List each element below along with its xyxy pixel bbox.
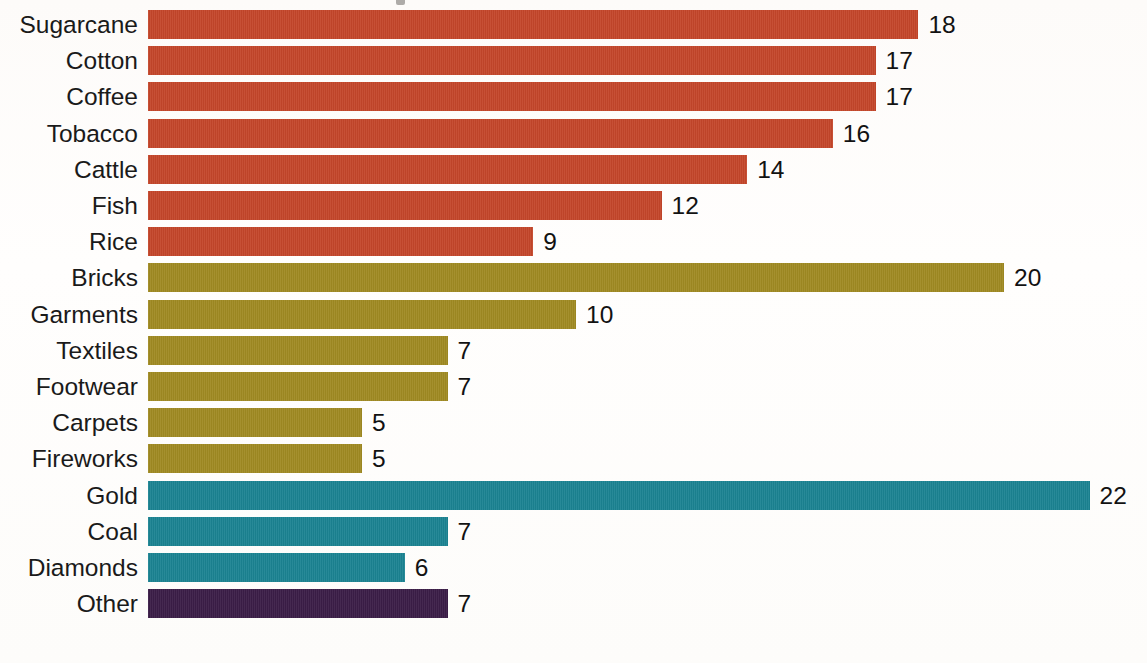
value-label-cotton: 17 [886,46,913,75]
category-label-cotton: Cotton [0,46,138,75]
bar-row: Garments10 [0,300,1147,329]
bar-row: Footwear7 [0,372,1147,401]
value-label-rice: 9 [543,227,557,256]
bar-sugarcane [148,10,918,39]
bar-row: Fish12 [0,191,1147,220]
value-label-other: 7 [458,589,472,618]
bar-gold [148,481,1090,510]
bar-row: Diamonds6 [0,553,1147,582]
bar-row: Other7 [0,589,1147,618]
value-label-cattle: 14 [757,155,784,184]
bar-row: Coal7 [0,517,1147,546]
category-label-rice: Rice [0,227,138,256]
category-label-tobacco: Tobacco [0,119,138,148]
category-label-carpets: Carpets [0,408,138,437]
bar-row: Coffee17 [0,82,1147,111]
bar-other [148,589,448,618]
category-label-garments: Garments [0,300,138,329]
category-label-coffee: Coffee [0,82,138,111]
value-label-footwear: 7 [458,372,472,401]
bar-fireworks [148,444,362,473]
value-label-carpets: 5 [372,408,386,437]
bar-carpets [148,408,362,437]
category-label-textiles: Textiles [0,336,138,365]
bar-row: Cattle14 [0,155,1147,184]
bar-row: Bricks20 [0,263,1147,292]
bar-footwear [148,372,448,401]
value-label-fish: 12 [672,191,699,220]
bar-rice [148,227,533,256]
category-label-diamonds: Diamonds [0,553,138,582]
bar-diamonds [148,553,405,582]
bar-row: Fireworks5 [0,444,1147,473]
category-label-gold: Gold [0,481,138,510]
value-label-fireworks: 5 [372,444,386,473]
value-label-textiles: 7 [458,336,472,365]
bar-tobacco [148,119,833,148]
bar-row: Gold22 [0,481,1147,510]
category-label-bricks: Bricks [0,263,138,292]
bar-chart: Sugarcane18Cotton17Coffee17Tobacco16Catt… [0,0,1147,663]
category-label-cattle: Cattle [0,155,138,184]
bar-garments [148,300,576,329]
bar-row: Rice9 [0,227,1147,256]
bar-fish [148,191,662,220]
bar-coal [148,517,448,546]
value-label-diamonds: 6 [415,553,429,582]
bar-row: Textiles7 [0,336,1147,365]
bar-coffee [148,82,876,111]
bar-textiles [148,336,448,365]
category-label-sugarcane: Sugarcane [0,10,138,39]
bar-row: Carpets5 [0,408,1147,437]
value-label-coal: 7 [458,517,472,546]
bar-cattle [148,155,747,184]
bar-row: Tobacco16 [0,119,1147,148]
category-label-fish: Fish [0,191,138,220]
category-label-coal: Coal [0,517,138,546]
category-label-footwear: Footwear [0,372,138,401]
bar-bricks [148,263,1004,292]
bar-row: Cotton17 [0,46,1147,75]
category-label-fireworks: Fireworks [0,444,138,473]
category-label-other: Other [0,589,138,618]
bar-row: Sugarcane18 [0,10,1147,39]
value-label-garments: 10 [586,300,613,329]
value-label-gold: 22 [1100,481,1127,510]
bar-rows-container: Sugarcane18Cotton17Coffee17Tobacco16Catt… [0,0,1147,663]
value-label-sugarcane: 18 [928,10,955,39]
value-label-tobacco: 16 [843,119,870,148]
bar-cotton [148,46,876,75]
value-label-bricks: 20 [1014,263,1041,292]
value-label-coffee: 17 [886,82,913,111]
